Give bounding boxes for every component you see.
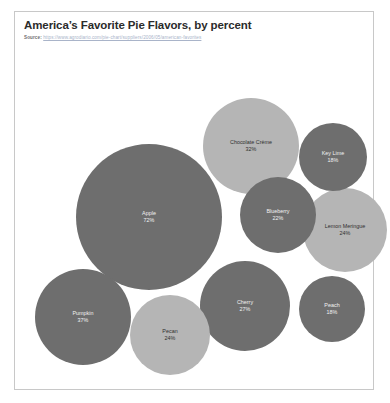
bubble-value: 18%: [328, 157, 339, 164]
bubble-value: 27%: [240, 306, 251, 313]
bubble-cherry[interactable]: Cherry27%: [200, 261, 290, 351]
bubble-value: 22%: [273, 215, 284, 222]
bubble-blueberry[interactable]: Blueberry22%: [240, 177, 316, 253]
bubble-apple[interactable]: Apple72%: [76, 144, 222, 290]
bubble-label: Pecan: [162, 328, 177, 335]
bubble-value: 32%: [246, 146, 257, 153]
bubble-label: Chocolate Crème: [230, 139, 272, 146]
bubble-pecan[interactable]: Pecan24%: [130, 295, 210, 375]
bubble-value: 72%: [144, 217, 155, 224]
page-title: America’s Favorite Pie Flavors, by perce…: [24, 19, 251, 31]
bubble-pumpkin[interactable]: Pumpkin37%: [35, 269, 131, 365]
bubble-label: Apple: [142, 210, 156, 217]
bubble-label: Key Lime: [322, 150, 344, 157]
chart-card: America’s Favorite Pie Flavors, by perce…: [14, 11, 374, 390]
bubble-label: Cherry: [237, 299, 253, 306]
bubble-lemon-meringue[interactable]: Lemon Meringue24%: [303, 188, 387, 272]
bubble-value: 24%: [165, 335, 176, 342]
bubble-value: 24%: [340, 230, 351, 237]
bubble-label: Lemon Meringue: [325, 223, 365, 230]
bubble-chart-plot: Apple72%Pumpkin37%Chocolate Crème32%Cher…: [15, 42, 373, 389]
bubble-label: Pumpkin: [73, 310, 94, 317]
bubble-key-lime[interactable]: Key Lime18%: [299, 123, 367, 191]
bubble-value: 37%: [78, 317, 89, 324]
bubble-value: 18%: [327, 309, 338, 316]
bubble-label: Peach: [324, 302, 339, 309]
bubble-peach[interactable]: Peach18%: [299, 276, 365, 342]
source-label: Source:: [24, 35, 42, 40]
source-url-link[interactable]: https://www.agrodiario.com/pie-chart/sup…: [43, 35, 201, 40]
chart-source: Source: https://www.agrodiario.com/pie-c…: [24, 35, 201, 40]
bubble-label: Blueberry: [266, 208, 289, 215]
